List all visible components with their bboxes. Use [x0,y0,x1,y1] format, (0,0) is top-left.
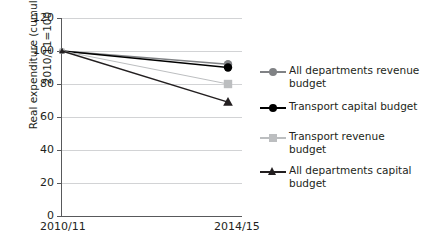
x-tick-label-1: 2014/15 [214,220,260,233]
y-tick-label-3: 60 [28,110,54,123]
chart-figure: Real expenditure (cumulative), 2010/11=1… [0,0,426,242]
x-tick-label-0: 2010/11 [40,220,86,233]
y-tick-label-1: 20 [28,176,54,189]
legend-label-0: All departments revenue budget [286,64,425,90]
plot-area: 020406080100120 2010/11 2014/15 [62,18,242,216]
y-tick-label-4: 80 [28,77,54,90]
legend-label-3: All departments capital budget [286,164,425,190]
legend-item-all-departments-revenue-budget[interactable]: All departments revenue budget [260,64,425,90]
legend-item-transport-revenue-budget[interactable]: Transport revenue budget [260,130,425,156]
legend-marker-square-icon [260,131,286,144]
legend-label-2: Transport revenue budget [286,130,425,156]
y-tick-label-2: 40 [28,143,54,156]
legend-marker-circle-icon [260,101,286,114]
series-layer [62,18,242,217]
legend-marker-triangle-icon [260,165,286,178]
legend-label-1: Transport capital budget [286,100,417,113]
series-line-2 [62,51,228,84]
legend-marker-circle-icon [260,65,286,78]
legend-item-transport-capital-budget[interactable]: Transport capital budget [260,100,417,114]
data-point-marker [224,63,232,71]
y-tick-label-6: 120 [28,11,54,24]
y-tick-label-5: 100 [28,44,54,57]
data-point-marker [224,80,232,88]
legend-item-all-departments-capital-budget[interactable]: All departments capital budget [260,164,425,190]
